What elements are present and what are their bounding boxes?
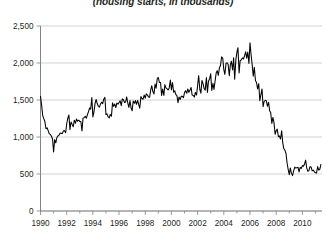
x-tick-label-2000: 2000: [162, 219, 181, 228]
y-tick-label-1000: 1,000: [13, 133, 34, 142]
y-tick-label-2000: 2,000: [13, 59, 34, 68]
x-tick-label-1992: 1992: [58, 219, 77, 228]
housing-starts-chart: (housing starts, in thousands) 05001,000…: [0, 0, 326, 238]
x-tick-label-2004: 2004: [215, 219, 234, 228]
x-tick-label-2002: 2002: [189, 219, 208, 228]
y-tick-label-0: 0: [29, 207, 34, 216]
y-axis-labels-group: 05001,0001,5002,0002,500: [13, 22, 34, 216]
y-tick-label-1500: 1,500: [13, 96, 34, 105]
x-tick-label-1990: 1990: [31, 219, 50, 228]
x-tick-label-1998: 1998: [136, 219, 155, 228]
x-tick-label-1996: 1996: [110, 219, 129, 228]
y-tick-label-2500: 2,500: [13, 22, 34, 31]
x-axis-labels-group: 1990199219941996199820002002200420062008…: [31, 219, 312, 228]
x-tick-label-2008: 2008: [267, 219, 286, 228]
x-tick-label-2010: 2010: [293, 219, 312, 228]
x-tick-label-1994: 1994: [84, 219, 103, 228]
x-tick-label-2006: 2006: [241, 219, 260, 228]
y-tick-label-500: 500: [20, 170, 34, 179]
chart-plot-area: 05001,0001,5002,0002,500 199019921994199…: [0, 0, 326, 238]
